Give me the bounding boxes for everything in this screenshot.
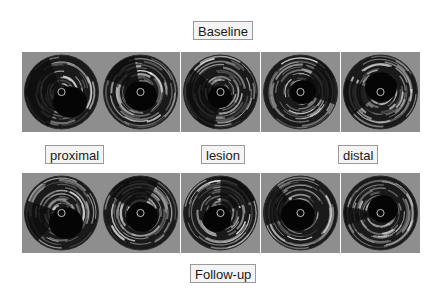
ivus-frame	[101, 52, 180, 132]
ivus-cross-section-image	[341, 173, 420, 253]
ivus-frame	[181, 173, 260, 253]
lesion-label: lesion	[201, 145, 245, 164]
follow-up-label: Follow-up	[190, 264, 256, 283]
ivus-cross-section-image	[22, 173, 101, 253]
ivus-cross-section-image	[181, 173, 260, 253]
follow-up-row	[22, 173, 421, 253]
ivus-frame	[22, 173, 101, 253]
ivus-cross-section-image	[101, 173, 180, 253]
ivus-frame	[22, 52, 101, 132]
ivus-frame	[261, 52, 340, 132]
ivus-frame	[181, 52, 260, 132]
ivus-cross-section-image	[261, 52, 340, 132]
baseline-label: Baseline	[193, 21, 253, 40]
ivus-cross-section-image	[181, 52, 260, 132]
ivus-frame	[101, 173, 180, 253]
proximal-label: proximal	[45, 145, 104, 164]
ivus-frame	[341, 173, 420, 253]
ivus-cross-section-image	[341, 52, 420, 132]
ivus-cross-section-image	[101, 52, 180, 132]
distal-label: distal	[338, 145, 378, 164]
ivus-cross-section-image	[22, 52, 101, 132]
baseline-row	[22, 52, 421, 132]
ivus-cross-section-image	[261, 173, 340, 253]
ivus-frame	[261, 173, 340, 253]
ivus-frame	[341, 52, 420, 132]
